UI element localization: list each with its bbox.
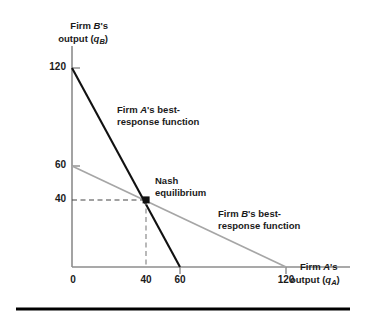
nash-label-line1: Nash xyxy=(155,175,206,187)
x-tick-label-40: 40 xyxy=(135,274,157,285)
y-axis-title: Firm B's output (qB) xyxy=(12,20,108,48)
firm-a-label-post: 's best- xyxy=(147,104,180,115)
firm-a-best-response-line xyxy=(72,68,180,267)
firm-b-best-response-label: Firm B's best- response function xyxy=(218,208,300,232)
firm-b-label-pre: Firm xyxy=(218,208,241,219)
y-axis-title-post: 's xyxy=(100,20,108,31)
y-tick-label-40: 40 xyxy=(44,193,66,204)
cournot-best-response-figure: Firm B's output (qB) Firm A's output (qA… xyxy=(0,0,366,322)
firm-a-label-line2: response function xyxy=(117,116,199,128)
x-axis-title-pre: Firm xyxy=(300,261,323,272)
nash-equilibrium-marker xyxy=(143,196,150,203)
nash-label-line2: equilibrium xyxy=(155,187,206,199)
y-axis-output-post: ) xyxy=(105,33,108,44)
x-tick-label-60: 60 xyxy=(169,274,191,285)
x-tick-label-0: 0 xyxy=(67,274,79,285)
y-tick-label-60: 60 xyxy=(44,159,66,170)
firm-b-label-post: 's best- xyxy=(248,208,281,219)
nash-equilibrium-label: Nash equilibrium xyxy=(155,175,206,199)
x-axis-title-post: 's xyxy=(330,261,338,272)
x-axis-output-post: ) xyxy=(337,274,340,285)
x-tick-label-120: 120 xyxy=(275,274,297,285)
y-tick-label-120: 120 xyxy=(44,61,66,72)
x-axis-title: Firm A's output (qA) xyxy=(300,261,366,289)
y-axis-output-pre: output ( xyxy=(58,33,93,44)
firm-a-label-pre: Firm xyxy=(117,104,140,115)
y-axis-title-pre: Firm xyxy=(70,20,93,31)
firm-a-best-response-label: Firm A's best- response function xyxy=(117,104,199,128)
firm-b-label-line2: response function xyxy=(218,220,300,232)
